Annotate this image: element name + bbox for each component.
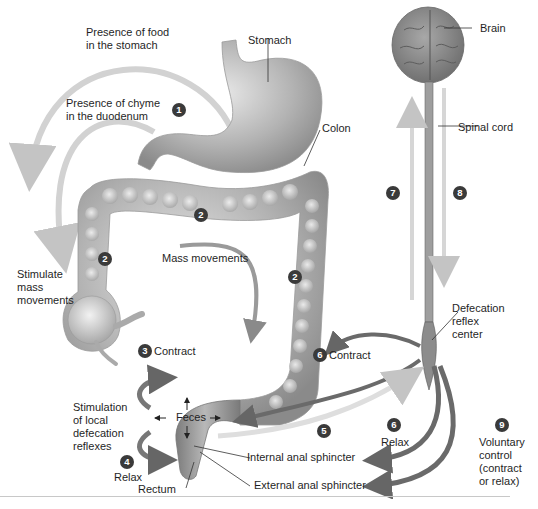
label-relax-6: Relax (381, 436, 409, 449)
label-local-reflex: Stimulationof localdefecationreflexes (73, 401, 127, 453)
step-2-badge-descending: 2 (288, 270, 302, 284)
step-2-badge-transverse: 2 (194, 208, 208, 222)
label-stimulate-mass-movements: Stimulatemassmovements (17, 268, 74, 307)
label-contract-6: Contract (329, 349, 371, 362)
label-spinal-cord: Spinal cord (458, 121, 513, 134)
label-mass-movements: Mass movements (162, 252, 248, 265)
step-6-badge-contract: 6 (313, 348, 327, 362)
label-feces: Feces (176, 411, 206, 424)
step-1-badge: 1 (172, 103, 186, 117)
local-reflex-arrows (140, 378, 168, 460)
label-defecation-reflex-center: Defecationreflexcenter (452, 302, 505, 341)
stomach-illustration (138, 40, 322, 173)
label-chyme-stimulus: Presence of chymein the duodenum (66, 97, 160, 123)
brain-illustration (392, 7, 464, 83)
step-2-badge-ascending: 2 (98, 252, 112, 266)
label-external-anal-sphincter: External anal sphincter (254, 479, 366, 492)
label-voluntary-control: Voluntarycontrol(contractor relax) (479, 436, 525, 488)
label-brain: Brain (480, 22, 506, 35)
label-rectum: Rectum (138, 483, 176, 496)
spinal-cord-illustration (422, 82, 437, 390)
label-colon: Colon (322, 122, 351, 135)
step-6-badge-relax: 6 (387, 418, 401, 432)
label-food-stimulus: Presence of foodin the stomach (86, 26, 169, 52)
label-stomach: Stomach (248, 34, 291, 47)
bottom-divider (0, 496, 510, 497)
step-7-badge: 7 (386, 186, 400, 200)
step-8-badge: 8 (453, 186, 467, 200)
step-4-badge: 4 (120, 455, 134, 469)
label-contract-3: Contract (154, 345, 196, 358)
step-9-badge: 9 (495, 418, 509, 432)
step-3-badge: 3 (138, 344, 152, 358)
label-internal-anal-sphincter: Internal anal sphincter (247, 451, 355, 464)
step-5-badge: 5 (317, 424, 331, 438)
